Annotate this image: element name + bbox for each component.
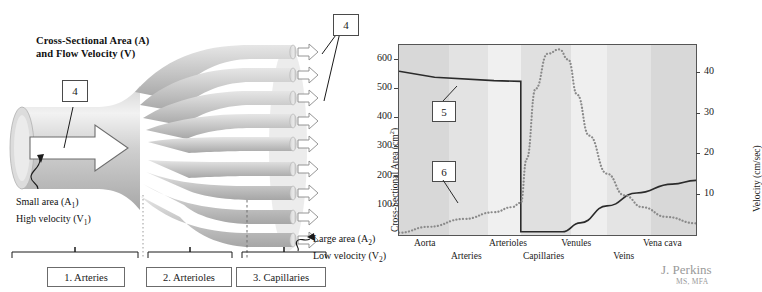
callout-outlet-4-label: 4 (343, 19, 349, 31)
segment-box-capillaries[interactable]: 3. Capillaries (236, 267, 326, 287)
segment-box-arteries[interactable]: 1. Arteries (47, 267, 125, 287)
large-area-note: Large area (A2) Low velocity (V2) (313, 233, 386, 266)
callout-outlet-4[interactable]: 4 (333, 14, 359, 36)
callout-inlet-4-label: 4 (72, 85, 78, 97)
callout-inlet-4[interactable]: 4 (62, 80, 88, 102)
segment-box-arterioles-label: 2. Arterioles (163, 272, 215, 283)
credit-name: J. Perkins (661, 262, 712, 278)
segment-box-arteries-label: 1. Arteries (64, 272, 108, 283)
small-area-line1: Small area (A1) (16, 196, 91, 213)
segment-box-capillaries-label: 3. Capillaries (253, 272, 309, 283)
small-area-line2: High velocity (V1) (16, 213, 91, 230)
vessel-diagram-panel: Cross-Sectional Area (A) and Flow Veloci… (0, 0, 380, 292)
chart-panel: Cross-Sectional Area (cm2) Velocity (cm/… (380, 0, 760, 292)
chart-callout-leaders (380, 0, 760, 292)
segment-box-arterioles[interactable]: 2. Arterioles (146, 267, 232, 287)
large-area-line1: Large area (A2) (313, 233, 386, 250)
small-area-note: Small area (A1) High velocity (V1) (16, 196, 91, 229)
large-area-line2: Low velocity (V2) (313, 250, 386, 267)
credit-credentials: MS, MFA (676, 277, 708, 286)
